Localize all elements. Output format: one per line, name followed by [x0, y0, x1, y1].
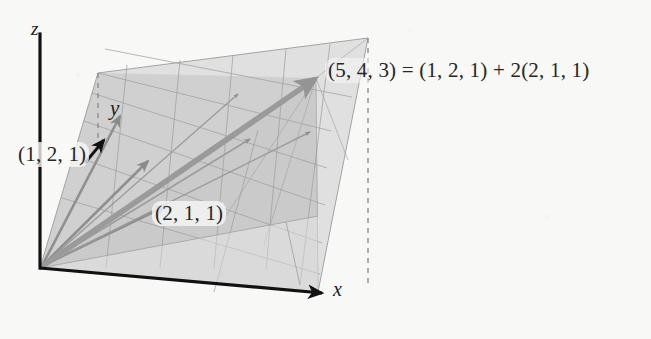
y-axis-label: y [110, 96, 119, 121]
z-axis-label: z [31, 18, 38, 40]
figure-canvas [0, 0, 651, 339]
vector-b-label: (2, 1, 1) [152, 201, 226, 226]
vector-a-label: (1, 2, 1) [15, 142, 89, 167]
vector-plane-figure: z y x (1, 2, 1) (2, 1, 1) (5, 4, 3) = (1… [0, 0, 651, 339]
equation-label: (5, 4, 3) = (1, 2, 1) + 2(2, 1, 1) [325, 58, 592, 83]
x-axis-label: x [333, 278, 342, 301]
